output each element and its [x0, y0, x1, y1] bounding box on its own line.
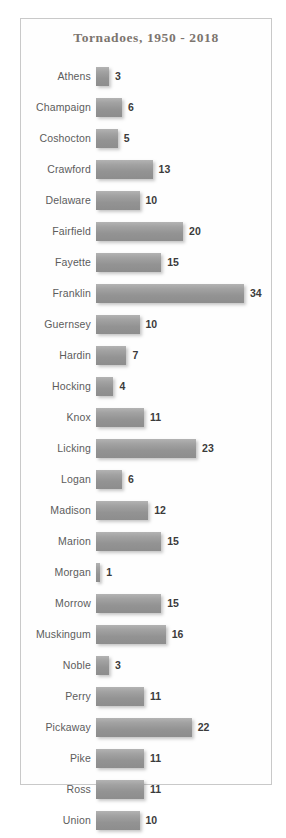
- bar: [96, 377, 113, 396]
- bar: [96, 222, 183, 241]
- bar: [96, 470, 122, 489]
- bar-track: 15: [96, 253, 273, 272]
- bar-row: Delaware10: [21, 187, 273, 218]
- bar-category-label: Guernsey: [0, 318, 91, 330]
- bar-track: 16: [96, 625, 273, 644]
- bar: [96, 656, 109, 675]
- bar: [96, 408, 144, 427]
- bar-track: 22: [96, 718, 273, 737]
- bar-track: 6: [96, 98, 273, 117]
- bar-row: Fairfield20: [21, 218, 273, 249]
- bar-row: Fayette15: [21, 249, 273, 280]
- bar-row: Muskingum16: [21, 621, 273, 652]
- bar-value-label: 10: [146, 814, 158, 826]
- bar-track: 11: [96, 408, 273, 427]
- bar-category-label: Fairfield: [0, 225, 91, 237]
- bar-row: Coshocton5: [21, 125, 273, 156]
- bar: [96, 346, 126, 365]
- bar-track: 3: [96, 67, 273, 86]
- bar-row: Franklin34: [21, 280, 273, 311]
- bar-category-label: Logan: [0, 473, 91, 485]
- bar-category-label: Hocking: [0, 380, 91, 392]
- bar-row: Champaign6: [21, 94, 273, 125]
- bar-category-label: Perry: [0, 690, 91, 702]
- bar: [96, 501, 148, 520]
- bar-track: 10: [96, 315, 273, 334]
- bar-value-label: 15: [167, 256, 179, 268]
- bar-category-label: Morgan: [0, 566, 91, 578]
- bar-value-label: 11: [150, 411, 161, 423]
- bar-track: 10: [96, 811, 273, 830]
- bar-value-label: 20: [189, 225, 201, 237]
- bar-row: Knox11: [21, 404, 273, 435]
- bar-track: 11: [96, 780, 273, 799]
- bar: [96, 98, 122, 117]
- bar-chart-plot-area: Athens3Champaign6Coshocton5Crawford13Del…: [21, 63, 273, 838]
- bar-category-label: Union: [0, 814, 91, 826]
- bar-track: 34: [96, 284, 273, 303]
- bar-row: Crawford13: [21, 156, 273, 187]
- bar-value-label: 10: [146, 318, 158, 330]
- bar-value-label: 6: [128, 473, 134, 485]
- bar-row: Hardin7: [21, 342, 273, 373]
- bar-category-label: Knox: [0, 411, 91, 423]
- bar-value-label: 22: [198, 721, 210, 733]
- bar-row: Hocking4: [21, 373, 273, 404]
- bar-track: 23: [96, 439, 273, 458]
- chart-frame: Tornadoes, 1950 - 2018 Athens3Champaign6…: [20, 18, 272, 785]
- bar-row: Pickaway22: [21, 714, 273, 745]
- bar-value-label: 15: [167, 597, 179, 609]
- bar-track: 11: [96, 687, 273, 706]
- bar-track: 11: [96, 749, 273, 768]
- bar-category-label: Crawford: [0, 163, 91, 175]
- bar: [96, 160, 153, 179]
- bar: [96, 439, 196, 458]
- bar-value-label: 11: [150, 783, 161, 795]
- bar: [96, 594, 161, 613]
- bar-category-label: Marion: [0, 535, 91, 547]
- bar-row: Athens3: [21, 63, 273, 94]
- chart-title: Tornadoes, 1950 - 2018: [21, 30, 271, 46]
- bar-track: 7: [96, 346, 273, 365]
- bar-value-label: 13: [159, 163, 171, 175]
- bar: [96, 315, 140, 334]
- bar-value-label: 1: [106, 566, 112, 578]
- bar-track: 10: [96, 191, 273, 210]
- bar-category-label: Champaign: [0, 101, 91, 113]
- bar-row: Logan6: [21, 466, 273, 497]
- bar-category-label: Hardin: [0, 349, 91, 361]
- bar-value-label: 23: [202, 442, 214, 454]
- bar-category-label: Licking: [0, 442, 91, 454]
- bar-row: Guernsey10: [21, 311, 273, 342]
- bar-category-label: Delaware: [0, 194, 91, 206]
- bar-value-label: 15: [167, 535, 179, 547]
- bar-track: 4: [96, 377, 273, 396]
- bar-row: Union10: [21, 807, 273, 838]
- bar-track: 15: [96, 594, 273, 613]
- bar-row: Marion15: [21, 528, 273, 559]
- bar: [96, 563, 100, 582]
- bar: [96, 67, 109, 86]
- bar: [96, 749, 144, 768]
- bar-category-label: Athens: [0, 70, 91, 82]
- bar: [96, 687, 144, 706]
- bar-track: 1: [96, 563, 273, 582]
- bar-row: Morgan1: [21, 559, 273, 590]
- bar-track: 6: [96, 470, 273, 489]
- bar-value-label: 7: [132, 349, 138, 361]
- bar-category-label: Ross: [0, 783, 91, 795]
- bar-category-label: Pickaway: [0, 721, 91, 733]
- bar-row: Perry11: [21, 683, 273, 714]
- bar-category-label: Pike: [0, 752, 91, 764]
- bar-category-label: Morrow: [0, 597, 91, 609]
- bar: [96, 625, 166, 644]
- bar: [96, 253, 161, 272]
- bar-track: 15: [96, 532, 273, 551]
- bar-value-label: 16: [172, 628, 184, 640]
- bar-track: 5: [96, 129, 273, 148]
- bar: [96, 780, 144, 799]
- bar-value-label: 10: [146, 194, 158, 206]
- bar-row: Madison12: [21, 497, 273, 528]
- bar-category-label: Madison: [0, 504, 91, 516]
- bar-row: Morrow15: [21, 590, 273, 621]
